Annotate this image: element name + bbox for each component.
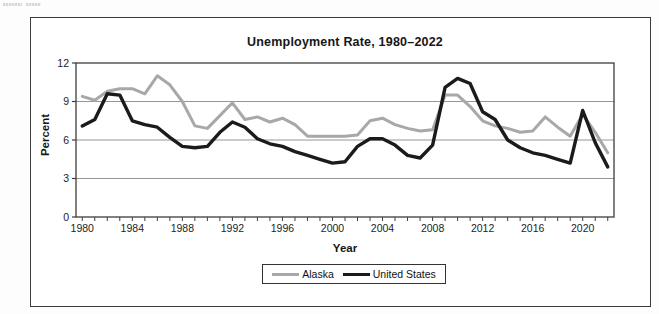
x-tick-label: 1992 xyxy=(221,222,245,234)
legend-line-sample xyxy=(272,273,299,276)
x-tick-label: 2000 xyxy=(321,222,345,234)
x-tick-label: 1980 xyxy=(71,222,95,234)
legend-item-united-states: United States xyxy=(343,268,436,280)
x-tick-label: 2012 xyxy=(471,222,495,234)
x-axis-title: Year xyxy=(76,242,614,254)
fine-print-word xyxy=(26,3,41,6)
y-tick-label: 6 xyxy=(63,134,69,146)
fine-print-word xyxy=(3,3,22,6)
x-tick-label: 1996 xyxy=(271,222,295,234)
x-tick-label: 2004 xyxy=(371,222,395,234)
y-tick-label: 0 xyxy=(63,211,69,223)
scanned-page: Unemployment Rate, 1980–2022 Percent 036… xyxy=(0,0,659,314)
x-tick-label: 2020 xyxy=(571,222,595,234)
y-tick-label: 9 xyxy=(63,95,69,107)
x-tick-label: 1988 xyxy=(171,222,195,234)
x-tick-label: 1984 xyxy=(121,222,145,234)
y-tick-label: 12 xyxy=(57,57,69,69)
plot-area: 0369121980198419881992199620002004200820… xyxy=(31,18,649,263)
legend-item-alaska: Alaska xyxy=(272,268,334,280)
series-line-united-states xyxy=(82,78,607,166)
x-tick-label: 2008 xyxy=(421,222,445,234)
legend-label: Alaska xyxy=(302,268,334,280)
y-tick-label: 3 xyxy=(63,172,69,184)
legend: AlaskaUnited States xyxy=(262,264,446,284)
legend-line-sample xyxy=(343,273,370,276)
x-tick-label: 2016 xyxy=(521,222,545,234)
legend-label: United States xyxy=(373,268,436,280)
fine-print-smudge xyxy=(3,2,45,6)
chart-figure: Unemployment Rate, 1980–2022 Percent 036… xyxy=(30,17,651,307)
series-line-alaska xyxy=(82,76,607,153)
